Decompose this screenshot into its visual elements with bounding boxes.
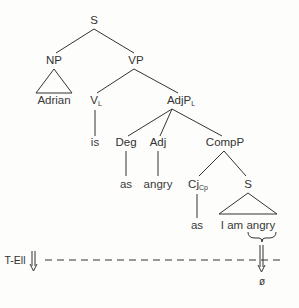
node-s-embedded: S: [244, 179, 252, 191]
node-v-subscript: L: [98, 100, 102, 107]
tree-lines: [0, 0, 299, 308]
leaf-adrian: Adrian: [37, 95, 70, 107]
node-vp: VP: [128, 55, 143, 67]
node-cj: CjCp: [188, 179, 208, 191]
leaf-as-cj: as: [191, 220, 203, 232]
node-v-label: V: [90, 94, 98, 106]
node-np: NP: [46, 55, 62, 67]
node-compp: CompP: [206, 137, 244, 149]
transformation-label: T-Ell: [5, 255, 26, 266]
leaf-is: is: [91, 137, 99, 149]
leaf-i-am-angry: I am angry: [221, 220, 275, 232]
leaf-angry: angry: [144, 179, 173, 191]
node-cj-label: Cj: [188, 178, 199, 190]
node-adjp-subscript: L: [191, 100, 195, 107]
node-v: VL: [90, 95, 102, 107]
node-adj: Adj: [150, 137, 167, 149]
node-adjp-label: AdjP: [167, 94, 191, 106]
node-cj-subscript: Cp: [199, 184, 208, 191]
node-deg: Deg: [115, 137, 136, 149]
node-s-root: S: [90, 15, 98, 27]
leaf-as-deg: as: [120, 179, 132, 191]
node-adjp: AdjPL: [167, 95, 195, 107]
null-symbol: ø: [259, 277, 265, 287]
